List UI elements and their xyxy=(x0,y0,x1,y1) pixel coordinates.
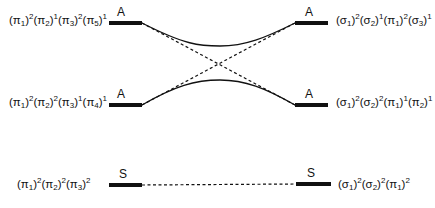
level-right-top xyxy=(295,21,328,25)
dashed-bot xyxy=(142,184,296,185)
level-right-mid xyxy=(295,103,328,107)
sym-left-bot: S xyxy=(119,168,127,180)
level-left-bot xyxy=(109,183,142,187)
level-right-bot xyxy=(296,182,331,186)
level-left-mid xyxy=(109,103,142,107)
sym-right-top: A xyxy=(305,6,313,18)
curve-upper xyxy=(142,23,295,46)
config-left-bot: (π1)2(π2)2(π3)2 xyxy=(17,177,91,192)
config-left-top: (π1)2(π2)1(π3)2(π5)1 xyxy=(9,13,107,28)
level-left-top xyxy=(109,21,142,25)
config-right-mid: (σ1)2(σ2)2(π1)1(π2)1 xyxy=(336,95,432,110)
sym-right-mid: A xyxy=(305,88,313,100)
config-right-top: (σ1)2(σ2)1(π1)2(σ3)1 xyxy=(336,13,432,28)
sym-left-mid: A xyxy=(117,88,125,100)
sym-left-top: A xyxy=(117,6,125,18)
sym-right-bot: S xyxy=(307,167,315,179)
curve-lower xyxy=(142,80,295,105)
config-left-mid: (π1)2(π2)2(π3)1(π4)1 xyxy=(9,95,107,110)
config-right-bot: (σ1)2(σ2)2(π1)2 xyxy=(338,177,410,192)
